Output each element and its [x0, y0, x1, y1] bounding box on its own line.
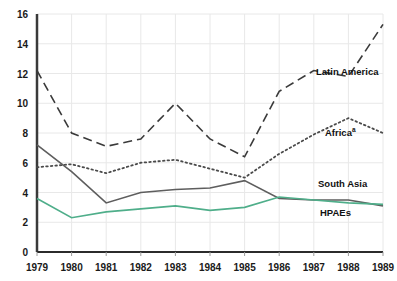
y-tick-label: 0 — [2, 247, 28, 258]
y-tick-label: 14 — [2, 38, 28, 49]
series-label-footnote-marker: a — [352, 126, 356, 133]
series-label-text: HPAEs — [320, 207, 351, 218]
x-tick-label: 1989 — [361, 262, 397, 273]
series-label-africa: Africaa — [325, 126, 356, 138]
series-label-text: Africa — [325, 127, 352, 138]
y-tick-label: 10 — [2, 98, 28, 109]
series-label-text: Latin America — [316, 66, 378, 77]
series-label-latin-america: Latin America — [316, 66, 378, 77]
series-label-south-asia: South Asia — [318, 178, 367, 189]
y-tick-label: 16 — [2, 9, 28, 20]
y-tick-label: 12 — [2, 68, 28, 79]
y-tick-label: 8 — [2, 128, 28, 139]
y-tick-label: 2 — [2, 217, 28, 228]
chart-container: 0246810121416 19791980198119821983198419… — [0, 0, 397, 281]
y-tick-label: 4 — [2, 187, 28, 198]
series-label-text: South Asia — [318, 178, 367, 189]
y-tick-label: 6 — [2, 157, 28, 168]
chart-plot-area — [0, 0, 397, 281]
series-label-hpaes: HPAEs — [320, 207, 351, 218]
